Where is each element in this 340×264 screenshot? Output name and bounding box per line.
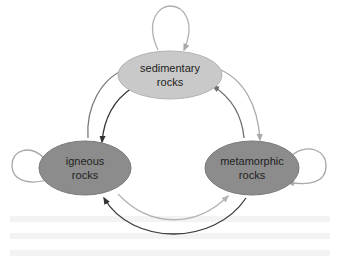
node-metamorphic-label-line1: metamorphic — [220, 155, 284, 167]
diagram-svg: sedimentary rocks igneous rocks metamorp… — [0, 0, 340, 264]
self-loop-sedimentary — [153, 6, 189, 50]
node-sedimentary-label-line2: rocks — [157, 76, 184, 88]
node-igneous: igneous rocks — [39, 141, 131, 195]
background-bleed — [10, 219, 330, 253]
arrow-sedimentary-to-igneous — [102, 88, 132, 142]
arrow-sedimentary-to-metamorphic — [216, 68, 260, 140]
node-metamorphic-label-line2: rocks — [239, 169, 266, 181]
node-metamorphic: metamorphic rocks — [205, 141, 299, 195]
node-igneous-label-line2: rocks — [72, 169, 99, 181]
node-sedimentary-label-line1: sedimentary — [140, 62, 200, 74]
node-sedimentary: sedimentary rocks — [118, 51, 222, 99]
arrow-igneous-to-metamorphic — [118, 194, 228, 220]
arrow-metamorphic-to-sedimentary — [213, 86, 244, 138]
rock-cycle-diagram: sedimentary rocks igneous rocks metamorp… — [0, 0, 340, 264]
node-igneous-label-line1: igneous — [66, 155, 105, 167]
